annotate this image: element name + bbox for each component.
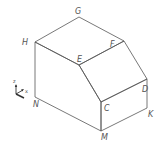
label-h: H (22, 38, 28, 47)
chamfer-face (79, 41, 147, 102)
block-edges (35, 17, 147, 131)
label-d: D (142, 85, 148, 94)
label-n: N (33, 100, 39, 109)
isometric-block-diagram: G H F E D C N M K z x (0, 0, 162, 144)
label-m: M (101, 133, 108, 142)
label-f: F (110, 40, 115, 49)
axis-x-label: x (25, 88, 28, 94)
label-c: C (104, 104, 110, 113)
vertex-labels: G H F E D C N M K (22, 7, 154, 142)
axis-z-label: z (13, 78, 16, 84)
label-g: G (75, 7, 81, 16)
label-k: K (148, 110, 154, 119)
axis-triad-icon: z x (13, 78, 28, 98)
left-face (35, 42, 101, 131)
label-e: E (77, 55, 83, 64)
